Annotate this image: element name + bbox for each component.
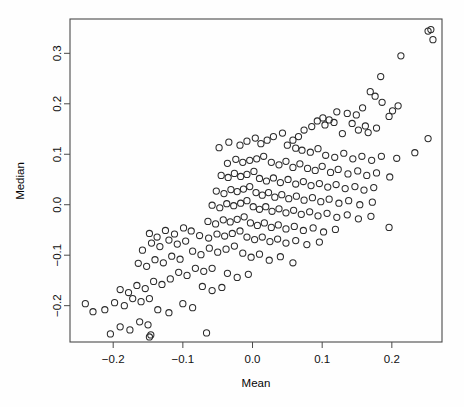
data-point — [160, 260, 166, 266]
data-point — [166, 237, 172, 243]
data-point — [240, 186, 246, 192]
data-point — [357, 202, 363, 208]
data-point — [222, 233, 228, 239]
data-point — [264, 137, 270, 143]
data-point — [283, 240, 289, 246]
data-point — [251, 168, 257, 174]
data-point — [224, 270, 230, 276]
data-point — [176, 269, 182, 275]
data-point — [309, 195, 315, 201]
data-point — [217, 205, 223, 211]
data-point — [177, 256, 183, 262]
data-point — [259, 234, 265, 240]
data-point — [169, 253, 175, 259]
data-point — [283, 210, 289, 216]
data-point — [295, 133, 301, 139]
data-point — [190, 305, 196, 311]
data-point — [346, 198, 352, 204]
data-point — [324, 210, 330, 216]
data-point — [314, 118, 320, 124]
data-point — [355, 168, 361, 174]
data-point — [322, 122, 328, 128]
data-point — [293, 193, 299, 199]
data-point — [228, 186, 234, 192]
data-point — [395, 103, 401, 109]
data-point — [386, 224, 392, 230]
data-point — [111, 300, 117, 306]
data-point — [331, 119, 337, 125]
data-point — [146, 230, 152, 236]
x-axis-title: Mean — [242, 377, 271, 389]
data-point — [310, 225, 316, 231]
data-point — [299, 147, 305, 153]
data-point — [148, 332, 154, 338]
data-point — [412, 150, 418, 156]
data-point — [277, 254, 283, 260]
data-point — [323, 152, 329, 158]
data-point — [252, 135, 258, 141]
plot-canvas: −0.2−0.10.00.10.2 −0.2−0.10.00.10.20.3 M… — [0, 0, 464, 407]
data-point — [167, 276, 173, 282]
data-point — [174, 241, 180, 247]
x-tick-label: −0.2 — [102, 353, 125, 365]
y-tick-label: −0.1 — [51, 244, 63, 267]
data-point — [180, 225, 186, 231]
data-point — [196, 232, 202, 238]
data-point — [365, 129, 371, 135]
data-point — [155, 307, 161, 313]
data-point — [293, 145, 299, 151]
data-point — [276, 162, 282, 168]
data-point — [371, 184, 377, 190]
data-point — [209, 265, 215, 271]
data-point — [300, 178, 306, 184]
data-point — [224, 160, 230, 166]
data-point — [209, 287, 215, 293]
data-point — [285, 176, 291, 182]
data-point — [254, 156, 260, 162]
data-point — [307, 149, 313, 155]
data-point — [154, 234, 160, 240]
data-point — [252, 236, 258, 242]
data-point — [102, 307, 108, 313]
scatter-plot-figure: −0.2−0.10.00.10.2 −0.2−0.10.00.10.20.3 M… — [0, 0, 464, 407]
data-point — [325, 184, 331, 190]
data-point — [254, 222, 260, 228]
data-point — [275, 222, 281, 228]
data-point — [425, 136, 431, 142]
data-point — [298, 211, 304, 217]
data-point — [275, 236, 281, 242]
data-point — [315, 146, 321, 152]
data-point — [142, 285, 148, 291]
data-point — [117, 324, 123, 330]
data-point — [336, 200, 342, 206]
data-point — [379, 99, 385, 105]
data-point — [107, 331, 113, 337]
data-point — [130, 296, 136, 302]
data-point — [339, 130, 345, 136]
data-point — [220, 217, 226, 223]
data-point — [225, 174, 231, 180]
data-point — [333, 181, 339, 187]
data-point — [334, 109, 340, 115]
data-point — [378, 73, 384, 79]
data-point — [283, 158, 289, 164]
data-point — [219, 284, 225, 290]
data-point — [268, 159, 274, 165]
data-point — [258, 141, 264, 147]
data-point — [166, 310, 172, 316]
y-axis-ticks — [64, 53, 70, 305]
data-point — [362, 123, 368, 129]
data-point — [398, 53, 404, 59]
data-point — [248, 254, 254, 260]
data-point — [192, 265, 198, 271]
data-point — [199, 283, 205, 289]
data-point — [203, 330, 209, 336]
data-point — [152, 257, 158, 263]
data-point — [290, 260, 296, 266]
data-point — [394, 155, 400, 161]
data-point — [90, 309, 96, 315]
x-axis-tick-labels: −0.2−0.10.00.10.2 — [102, 353, 400, 365]
data-point — [256, 251, 262, 257]
data-point — [344, 212, 350, 218]
data-point — [205, 218, 211, 224]
